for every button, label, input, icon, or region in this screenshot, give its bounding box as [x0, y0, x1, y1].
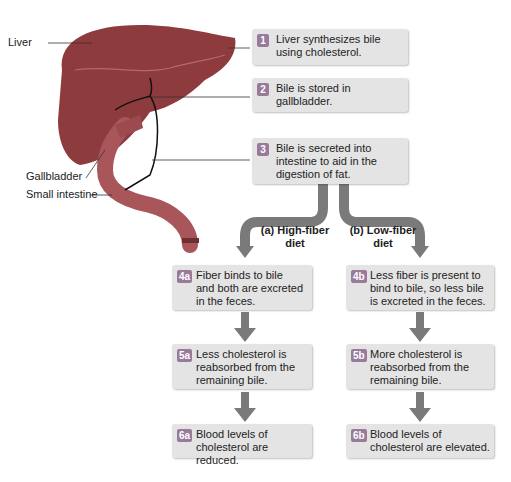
step-badge: 4b — [351, 270, 367, 283]
step-text-line: Blood levels of — [370, 428, 490, 441]
step-text-line: intestine to aid in the — [276, 155, 377, 168]
liver-label: Liver — [8, 36, 32, 48]
liver-shape — [58, 25, 235, 165]
step-text-line: reabsorbed from the — [370, 361, 469, 374]
step-text-line: and both are excreted — [196, 282, 303, 295]
diet-label-line: (a) High-fiber — [250, 224, 340, 237]
step-text-line: cholesterol are reduced. — [196, 441, 312, 467]
step-6a-box: 6a Blood levels ofcholesterol are reduce… — [172, 424, 312, 458]
diet-label-line: (b) Low-fiber — [338, 224, 428, 237]
step-text-line: cholesterol are elevated. — [370, 441, 490, 454]
step-text-line: Bile is stored in — [276, 82, 351, 95]
step-badge: 6a — [177, 429, 192, 442]
high-fiber-label: (a) High-fiberdiet — [250, 224, 340, 250]
step-text-line: More cholesterol is — [370, 348, 469, 361]
step-5a-box: 5a Less cholesterol isreabsorbed from th… — [172, 344, 312, 389]
step-1-box: 1 Liver synthesizes bileusing cholestero… — [252, 29, 408, 65]
step-badge: 1 — [257, 34, 269, 47]
step-text-line: Less fiber is present to — [370, 269, 486, 282]
low-fiber-label: (b) Low-fiberdiet — [338, 224, 428, 250]
step-5b-box: 5b More cholesterol isreabsorbed from th… — [346, 344, 494, 389]
step-text-line: gallbladder. — [276, 95, 351, 108]
step-text-line: Bile is secreted into — [276, 142, 377, 155]
step-text-line: remaining bile. — [370, 374, 469, 387]
step-badge: 5b — [351, 349, 367, 362]
step-badge: 5a — [177, 349, 192, 362]
step-text-line: Liver synthesizes bile — [276, 33, 381, 46]
step-text-line: remaining bile. — [196, 374, 295, 387]
step-text-line: using cholesterol. — [276, 46, 381, 59]
step-text-line: digestion of fat. — [276, 168, 377, 181]
step-3-box: 3 Bile is secreted intointestine to aid … — [252, 138, 408, 184]
step-text-line: in the feces. — [196, 295, 303, 308]
step-text-line: Fiber binds to bile — [196, 269, 303, 282]
diet-label-line: diet — [250, 237, 340, 250]
step-badge: 6b — [351, 429, 367, 442]
step-4a-box: 4a Fiber binds to bileand both are excre… — [172, 265, 312, 310]
step-badge: 4a — [177, 270, 192, 283]
small-intestine-label: Small intestine — [26, 188, 98, 200]
step-badge: 2 — [257, 83, 269, 96]
step-text-line: Blood levels of — [196, 428, 312, 441]
gallbladder-label: Gallbladder — [26, 170, 82, 182]
intestine-shape — [105, 125, 190, 245]
step-badge: 3 — [257, 143, 269, 156]
step-text-line: bind to bile, so less bile — [370, 282, 486, 295]
step-2-box: 2 Bile is stored ingallbladder. — [252, 78, 408, 112]
step-text-line: Less cholesterol is — [196, 348, 295, 361]
step-text-line: is excreted in the feces. — [370, 295, 486, 308]
diet-label-line: diet — [338, 237, 428, 250]
step-text-line: reabsorbed from the — [196, 361, 295, 374]
step-6b-box: 6b Blood levels ofcholesterol are elevat… — [346, 424, 494, 458]
step-4b-box: 4b Less fiber is present tobind to bile,… — [346, 265, 494, 310]
